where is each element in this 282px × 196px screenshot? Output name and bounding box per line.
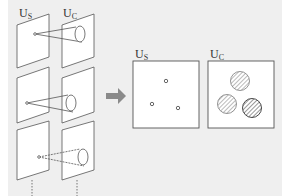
arrow-right-icon	[106, 88, 126, 104]
frame-pair-1	[17, 14, 94, 68]
diagram-svg	[0, 0, 282, 196]
uc-panel	[208, 61, 274, 128]
frame-pair-3	[17, 121, 94, 180]
frame-pair-2	[17, 67, 94, 123]
us-panel	[133, 61, 199, 128]
